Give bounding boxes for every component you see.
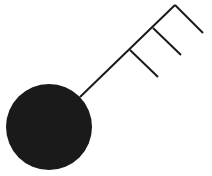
key-figure (0, 0, 212, 176)
key-teeth (130, 5, 203, 77)
key-shaft-line (80, 5, 175, 97)
key-icon (0, 0, 212, 176)
key-bow-circle (6, 84, 92, 170)
key-tooth-1 (175, 5, 203, 33)
key-tooth-3 (130, 50, 158, 77)
key-tooth-2 (153, 28, 181, 55)
